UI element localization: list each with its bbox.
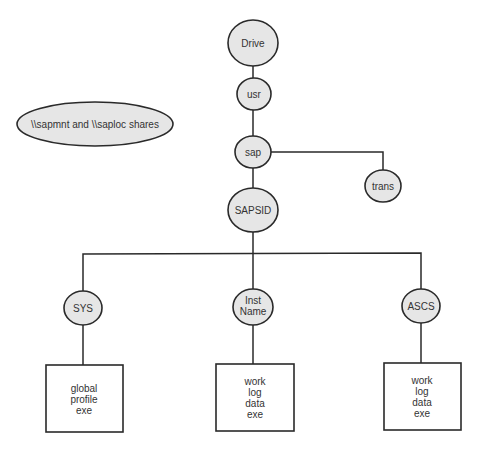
node-trans: trans: [365, 170, 401, 202]
node-drive: Drive: [228, 20, 278, 66]
box-inst-item: data: [245, 398, 265, 409]
node-inst-label-1: Inst: [245, 295, 261, 306]
node-inst-name: Inst Name: [233, 289, 273, 325]
box-sys-item: global: [71, 383, 98, 394]
box-sys-item: profile: [70, 394, 98, 405]
node-usr-label: usr: [247, 89, 262, 100]
node-trans-label: trans: [372, 181, 394, 192]
node-usr: usr: [237, 78, 271, 110]
box-inst-item: log: [248, 387, 261, 398]
node-ascs-label: ASCS: [407, 301, 435, 312]
node-sys: SYS: [64, 291, 102, 325]
box-ascs-item: data: [412, 397, 432, 408]
box-inst-dirs: work log data exe: [216, 364, 294, 431]
node-inst-label-2: Name: [240, 306, 267, 317]
box-ascs-item: exe: [414, 408, 431, 419]
box-inst-item: work: [243, 376, 266, 387]
node-sapsid: SAPSID: [228, 188, 278, 232]
node-sapsid-label: SAPSID: [235, 205, 272, 216]
edge-sap-trans: [271, 152, 383, 170]
node-sap: sap: [235, 136, 271, 168]
box-inst-item: exe: [247, 409, 264, 420]
shares-ellipse: \\sapmnt and \\saploc shares: [17, 102, 173, 146]
box-ascs-dirs: work log data exe: [384, 363, 461, 430]
box-sys-dirs: global profile exe: [46, 365, 123, 432]
edge-sapsid-branches: [83, 253, 421, 291]
shares-label: \\sapmnt and \\saploc shares: [31, 119, 159, 130]
directory-tree-diagram: \\sapmnt and \\saploc shares Drive usr s…: [0, 0, 485, 455]
node-ascs: ASCS: [402, 289, 440, 323]
box-ascs-item: work: [410, 375, 433, 386]
node-sap-label: sap: [245, 147, 262, 158]
box-sys-item: exe: [76, 405, 93, 416]
box-ascs-item: log: [415, 386, 428, 397]
node-drive-label: Drive: [241, 38, 265, 49]
node-sys-label: SYS: [73, 303, 93, 314]
